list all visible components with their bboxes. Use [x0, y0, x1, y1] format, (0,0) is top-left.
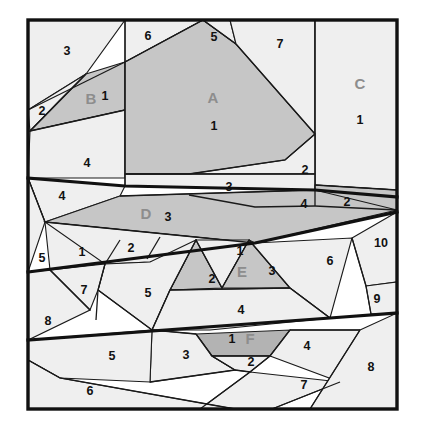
- region-count-label: 3: [269, 264, 276, 278]
- region-count-label: 2: [128, 241, 135, 255]
- region-count-label: 1: [237, 244, 244, 258]
- region-count-label: 6: [145, 29, 152, 43]
- region-count-label: 4: [84, 156, 91, 170]
- region-count-label: 1: [211, 119, 218, 133]
- region-count-label: 5: [109, 349, 116, 363]
- region-count-label: 1: [102, 89, 109, 103]
- region-count-label: 1: [357, 113, 364, 127]
- region-count-label: 8: [45, 314, 52, 328]
- region-count-label: 2: [344, 195, 351, 209]
- region-count-label: 3: [165, 210, 172, 224]
- region-count-label: 3: [226, 180, 233, 194]
- region-count-label: 7: [301, 378, 308, 392]
- region-count-label: 3: [64, 44, 71, 58]
- region-count-label: 5: [145, 286, 152, 300]
- region-count-label: 1: [229, 332, 236, 346]
- group-label-c: C: [355, 75, 366, 92]
- group-label-e: E: [237, 263, 247, 280]
- region-count-label: 7: [81, 283, 88, 297]
- region-count-label: 4: [238, 303, 245, 317]
- region-count-label: 4: [59, 189, 66, 203]
- region-count-label: 2: [302, 163, 309, 177]
- region-count-label: 7: [277, 37, 284, 51]
- region-count-label: 8: [368, 360, 375, 374]
- group-label-d: D: [141, 205, 152, 222]
- region-count-label: 1: [79, 245, 86, 259]
- region-count-label: 9: [374, 292, 381, 306]
- region-count-label: 6: [87, 384, 94, 398]
- region-count-label: 3: [183, 348, 190, 362]
- group-label-f: F: [245, 330, 254, 347]
- figure-root: 3657211142344235121102367598415324867 AB…: [0, 0, 422, 434]
- group-label-b: B: [86, 90, 97, 107]
- cells-layer: [28, 20, 397, 409]
- region-count-label: 5: [39, 251, 46, 265]
- region-count-label: 4: [301, 197, 308, 211]
- group-label-a: A: [208, 89, 219, 106]
- region-count-label: 10: [374, 236, 388, 250]
- cell-c-right: [315, 20, 397, 190]
- region-count-label: 2: [39, 104, 46, 118]
- polygon-partition-svg: 3657211142344235121102367598415324867 AB…: [0, 0, 422, 434]
- region-count-label: 2: [248, 355, 255, 369]
- region-count-label: 6: [327, 254, 334, 268]
- region-count-label: 4: [304, 339, 311, 353]
- region-count-label: 5: [211, 30, 218, 44]
- region-count-label: 2: [209, 272, 216, 286]
